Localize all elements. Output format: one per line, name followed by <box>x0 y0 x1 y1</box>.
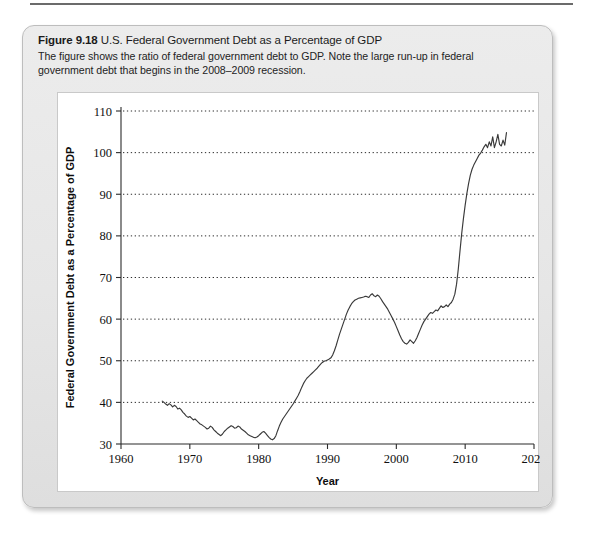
y-tick-label-40: 40 <box>100 396 113 410</box>
data-series-group <box>162 133 506 440</box>
figure-title: Figure 9.18 U.S. Federal Government Debt… <box>38 33 538 48</box>
figure-caption-block: Figure 9.18 U.S. Federal Government Debt… <box>38 33 538 77</box>
data-series-line-0 <box>162 133 506 440</box>
gridlines-group <box>123 111 534 402</box>
y-tick-label-30: 30 <box>100 438 113 452</box>
figure-card: Figure 9.18 U.S. Federal Government Debt… <box>22 25 553 508</box>
x-tick-label-1990: 1990 <box>315 452 340 466</box>
x-tick-label-1960: 1960 <box>109 452 134 466</box>
y-tick-label-100: 100 <box>93 146 112 160</box>
x-tick-label-2020: 2020 <box>522 452 541 466</box>
y-tick-label-60: 60 <box>100 313 113 327</box>
page-top-rule <box>30 3 573 5</box>
figure-subtitle: The figure shows the ratio of federal go… <box>38 50 493 77</box>
y-tick-label-80: 80 <box>100 229 113 243</box>
chart-plot-panel: 3040506070809010011019601970198019902000… <box>57 92 539 492</box>
x-tick-label-2000: 2000 <box>384 452 409 466</box>
y-tick-label-70: 70 <box>100 271 113 285</box>
y-tick-label-90: 90 <box>100 188 113 202</box>
x-tick-label-2010: 2010 <box>453 452 478 466</box>
y-axis-title: Federal Government Debt as a Percentage … <box>64 147 76 409</box>
x-tick-label-1980: 1980 <box>246 452 271 466</box>
x-axis-title: Year <box>316 475 340 487</box>
tick-labels-group: 3040506070809010011019601970198019902000… <box>93 105 540 467</box>
figure-title-text: U.S. Federal Government Debt as a Percen… <box>101 34 382 46</box>
y-tick-label-110: 110 <box>94 105 112 119</box>
figure-number: Figure 9.18 <box>38 34 98 46</box>
y-tick-label-50: 50 <box>100 354 113 368</box>
x-tick-label-1970: 1970 <box>177 452 202 466</box>
debt-to-gdp-line-chart: 3040506070809010011019601970198019902000… <box>58 93 540 493</box>
